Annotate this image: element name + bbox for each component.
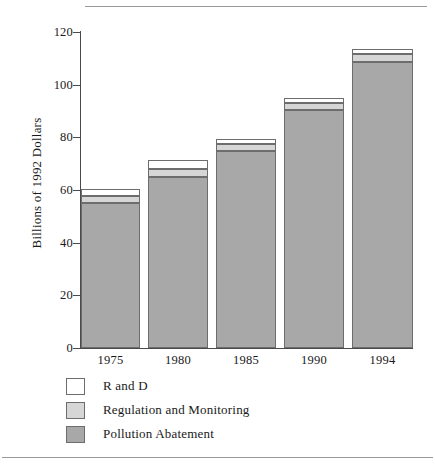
bar-segment-r-and-d-1994[interactable] [352, 49, 413, 54]
legend-item-r-and-d[interactable]: R and D [66, 374, 396, 398]
y-tick-mark-20 [73, 295, 80, 296]
x-axis-label-1980: 1980 [148, 353, 208, 368]
bar-1994[interactable] [352, 49, 413, 348]
x-axis-label-1994: 1994 [352, 353, 413, 368]
legend-swatch-r-and-d [66, 378, 85, 395]
legend-swatch-pollution-abatement [66, 426, 85, 443]
bar-1975[interactable] [81, 189, 140, 348]
y-tick-label-100: 100 [27, 79, 73, 91]
bar-segment-pollution-abatement-1985[interactable] [216, 151, 276, 348]
stacked-bar-chart-figure: Billions of 1992 Dollars 120 100 80 60 4… [0, 0, 435, 465]
x-axis-label-1975: 1975 [81, 353, 140, 368]
bar-segment-regulation-and-monitoring-1990[interactable] [284, 103, 344, 110]
legend-item-pollution-abatement[interactable]: Pollution Abatement [66, 422, 396, 446]
bar-segment-pollution-abatement-1975[interactable] [81, 203, 140, 348]
legend-label-regulation-and-monitoring: Regulation and Monitoring [103, 402, 250, 418]
bar-segment-regulation-and-monitoring-1994[interactable] [352, 54, 413, 62]
bar-segment-regulation-and-monitoring-1985[interactable] [216, 144, 276, 151]
y-tick-mark-120 [73, 32, 80, 33]
y-tick-mark-60 [73, 190, 80, 191]
y-tick-label-0: 0 [27, 342, 73, 354]
bar-segment-r-and-d-1985[interactable] [216, 139, 276, 144]
y-tick-label-60: 60 [27, 184, 73, 196]
y-tick-label-40: 40 [27, 237, 73, 249]
bar-segment-r-and-d-1980[interactable] [148, 160, 208, 169]
bar-segment-pollution-abatement-1990[interactable] [284, 110, 344, 348]
y-tick-mark-40 [73, 243, 80, 244]
y-tick-mark-100 [73, 85, 80, 86]
bar-1990[interactable] [284, 98, 344, 348]
y-tick-mark-80 [73, 137, 80, 138]
bar-segment-r-and-d-1975[interactable] [81, 189, 140, 196]
bottom-divider-rule [2, 457, 433, 458]
legend-item-regulation-and-monitoring[interactable]: Regulation and Monitoring [66, 398, 396, 422]
bar-segment-regulation-and-monitoring-1980[interactable] [148, 169, 208, 177]
bar-1985[interactable] [216, 139, 276, 348]
y-tick-label-80: 80 [27, 131, 73, 143]
y-axis-title: Billions of 1992 Dollars [29, 88, 45, 278]
chart-legend: R and D Regulation and Monitoring Pollut… [66, 374, 396, 446]
legend-swatch-regulation-and-monitoring [66, 402, 85, 419]
top-divider-rule [85, 6, 427, 7]
x-axis-label-1990: 1990 [284, 353, 344, 368]
bar-segment-r-and-d-1990[interactable] [284, 98, 344, 103]
bar-segment-pollution-abatement-1980[interactable] [148, 177, 208, 348]
y-tick-mark-0 [73, 348, 80, 349]
bar-1980[interactable] [148, 160, 208, 348]
bar-segment-pollution-abatement-1994[interactable] [352, 62, 413, 348]
x-axis-label-1985: 1985 [216, 353, 276, 368]
y-tick-label-20: 20 [27, 289, 73, 301]
x-axis-line [73, 348, 413, 349]
legend-label-r-and-d: R and D [103, 378, 148, 394]
bar-segment-regulation-and-monitoring-1975[interactable] [81, 196, 140, 203]
y-tick-label-120: 120 [27, 26, 73, 38]
plot-area [81, 32, 413, 348]
legend-label-pollution-abatement: Pollution Abatement [103, 426, 214, 442]
